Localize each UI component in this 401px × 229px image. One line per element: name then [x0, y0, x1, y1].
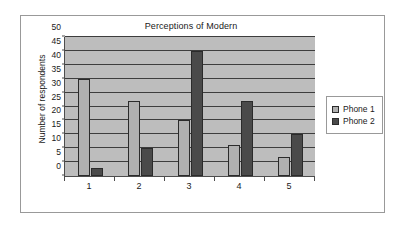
y-tick-label: 30 [41, 78, 61, 88]
chart-frame: Perceptions of Modern Number of responde… [20, 15, 385, 213]
bar [78, 79, 90, 176]
plot-area: 05101520253035404550 [64, 37, 315, 177]
bar [141, 148, 153, 176]
x-tick-label: 5 [264, 181, 314, 191]
bars-layer [65, 37, 315, 176]
bar-group [165, 37, 215, 176]
bar [191, 51, 203, 176]
y-tick-label: 15 [41, 119, 61, 129]
y-tick-label: 10 [41, 133, 61, 143]
x-tick-label: 4 [214, 181, 264, 191]
y-tick-label: 35 [41, 64, 61, 74]
legend-label: Phone 2 [343, 116, 375, 126]
y-tick-label: 40 [41, 50, 61, 60]
x-axis-labels: 12345 [64, 181, 314, 191]
bar [278, 157, 290, 176]
bar [91, 168, 103, 176]
y-tick-label: 20 [41, 105, 61, 115]
legend-swatch-icon [332, 118, 339, 125]
bar-group [65, 37, 115, 176]
y-tick-label: 25 [41, 92, 61, 102]
legend: Phone 1Phone 2 [326, 96, 383, 134]
y-tick-label: 50 [41, 22, 61, 32]
legend-item: Phone 1 [332, 104, 375, 114]
legend-label: Phone 1 [343, 104, 375, 114]
chart-title: Perceptions of Modern [61, 21, 321, 31]
bar [228, 145, 240, 176]
bar [291, 134, 303, 176]
y-tick-label: 0 [41, 161, 61, 171]
bar [178, 120, 190, 176]
bar [128, 101, 140, 176]
x-tick-label: 1 [64, 181, 114, 191]
y-tick-label: 45 [41, 36, 61, 46]
bar-group [115, 37, 165, 176]
x-tick-mark [314, 177, 315, 181]
legend-item: Phone 2 [332, 116, 375, 126]
x-tick-label: 2 [114, 181, 164, 191]
bar [241, 101, 253, 176]
y-tick-label: 5 [41, 147, 61, 157]
legend-swatch-icon [332, 106, 339, 113]
x-tick-label: 3 [164, 181, 214, 191]
bar-group [215, 37, 265, 176]
bar-group [265, 37, 315, 176]
